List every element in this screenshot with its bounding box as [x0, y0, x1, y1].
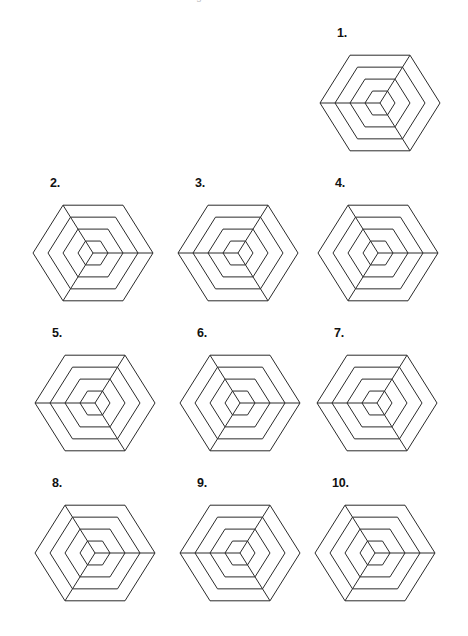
- nested-hexagons-svg: [312, 340, 442, 466]
- center-spoke: [380, 103, 388, 115]
- figure-drawing: [315, 40, 445, 166]
- radial-spoke: [103, 415, 111, 427]
- figure-drawing: [313, 190, 443, 316]
- figure-item[interactable]: 1.: [315, 26, 445, 166]
- radial-spoke: [255, 517, 263, 529]
- center-spoke: [238, 241, 246, 253]
- center-spoke: [377, 403, 385, 415]
- figure-item[interactable]: 5.: [30, 326, 160, 466]
- radial-spoke: [388, 115, 396, 127]
- figure-item[interactable]: 8.: [30, 476, 160, 616]
- figure-item[interactable]: 3.: [173, 176, 303, 316]
- figure-number-label: 3.: [195, 176, 205, 190]
- radial-spoke: [80, 529, 88, 541]
- figure-drawing: [173, 190, 303, 316]
- figure-number-label: 7.: [334, 326, 344, 340]
- figure-drawing: [310, 490, 440, 616]
- nested-hexagons-svg: [313, 190, 443, 316]
- radial-spoke: [400, 439, 408, 451]
- radial-spoke: [248, 529, 256, 541]
- figure-drawing: [312, 340, 442, 466]
- radial-spoke: [263, 589, 271, 601]
- radial-spoke: [73, 577, 81, 589]
- figure-drawing: [175, 490, 305, 616]
- center-spoke: [371, 241, 379, 253]
- radial-spoke: [392, 427, 400, 439]
- figure-drawing: [28, 190, 158, 316]
- center-spoke: [233, 403, 241, 415]
- figure-number-label: 10.: [332, 476, 349, 490]
- center-spoke: [377, 391, 385, 403]
- figure-number-label: 4.: [335, 176, 345, 190]
- radial-spoke: [395, 127, 403, 139]
- figure-drawing: [30, 490, 160, 616]
- radial-spoke: [78, 265, 86, 277]
- figure-item[interactable]: 2.: [28, 176, 158, 316]
- radial-spoke: [65, 589, 73, 601]
- radial-spoke: [80, 565, 88, 577]
- radial-spoke: [65, 505, 73, 517]
- radial-spoke: [261, 289, 269, 301]
- radial-spoke: [225, 415, 233, 427]
- center-spoke: [238, 253, 246, 265]
- nested-hexagons-svg: [28, 190, 158, 316]
- nested-hexagons-svg: [173, 190, 303, 316]
- radial-spoke: [63, 289, 71, 301]
- radial-spoke: [248, 565, 256, 577]
- radial-spoke: [360, 529, 368, 541]
- radial-spoke: [345, 589, 353, 601]
- center-spoke: [88, 541, 96, 553]
- radial-spoke: [63, 205, 71, 217]
- center-spoke: [86, 253, 94, 265]
- figure-item[interactable]: 10.: [310, 476, 440, 616]
- figure-item[interactable]: 9.: [175, 476, 305, 616]
- radial-spoke: [253, 217, 261, 229]
- figure-item[interactable]: 4.: [313, 176, 443, 316]
- figure-number-label: 8.: [52, 476, 62, 490]
- figure-item[interactable]: 7.: [312, 326, 442, 466]
- radial-spoke: [363, 229, 371, 241]
- center-spoke: [380, 91, 388, 103]
- radial-spoke: [388, 79, 396, 91]
- radial-spoke: [348, 205, 356, 217]
- nested-hexagons-svg: [175, 490, 305, 616]
- center-spoke: [88, 553, 96, 565]
- clipped-header-text: Which of these figures is different from…: [0, 0, 468, 3]
- nested-hexagons-svg: [175, 340, 305, 466]
- radial-spoke: [218, 367, 226, 379]
- radial-spoke: [345, 505, 353, 517]
- radial-spoke: [255, 577, 263, 589]
- radial-spoke: [363, 265, 371, 277]
- radial-spoke: [385, 415, 393, 427]
- radial-spoke: [261, 205, 269, 217]
- radial-spoke: [356, 277, 364, 289]
- figure-item[interactable]: 6.: [175, 326, 305, 466]
- radial-spoke: [400, 355, 408, 367]
- radial-spoke: [353, 577, 361, 589]
- radial-spoke: [118, 355, 126, 367]
- center-spoke: [240, 541, 248, 553]
- radial-spoke: [395, 67, 403, 79]
- radial-spoke: [353, 517, 361, 529]
- radial-spoke: [253, 277, 261, 289]
- center-spoke: [86, 241, 94, 253]
- radial-spoke: [356, 217, 364, 229]
- radial-spoke: [103, 379, 111, 391]
- radial-spoke: [246, 229, 254, 241]
- center-spoke: [368, 541, 376, 553]
- radial-spoke: [71, 217, 79, 229]
- radial-spoke: [71, 277, 79, 289]
- radial-spoke: [246, 265, 254, 277]
- figure-drawing: [175, 340, 305, 466]
- center-spoke: [368, 553, 376, 565]
- radial-spoke: [218, 427, 226, 439]
- radial-spoke: [210, 439, 218, 451]
- radial-spoke: [263, 505, 271, 517]
- figure-number-label: 1.: [337, 26, 347, 40]
- radial-spoke: [403, 55, 411, 67]
- figure-number-label: 5.: [52, 326, 62, 340]
- radial-spoke: [385, 379, 393, 391]
- radial-spoke: [110, 427, 118, 439]
- radial-spoke: [210, 355, 218, 367]
- figure-drawing: [30, 340, 160, 466]
